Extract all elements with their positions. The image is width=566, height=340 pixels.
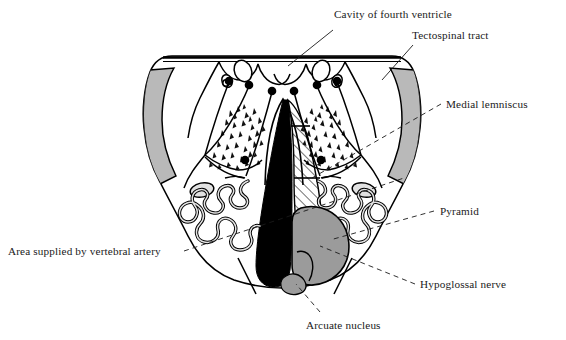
label-cavity-of-fourth-ventricle: Cavity of fourth ventricle <box>334 8 452 20</box>
label-area-supplied-by-vertebral-artery: Area supplied by vertebral artery <box>8 245 161 257</box>
leader-arcuate-nucleus <box>296 284 320 312</box>
label-hypoglossal-nerve: Hypoglossal nerve <box>420 278 506 290</box>
medulla-cross-section-svg: Cavity of fourth ventricle Tectospinal t… <box>0 0 566 340</box>
label-arcuate-nucleus: Arcuate nucleus <box>306 319 381 331</box>
label-pyramid: Pyramid <box>440 205 479 217</box>
anatomy-figure: Cavity of fourth ventricle Tectospinal t… <box>0 0 566 340</box>
label-tectospinal-tract: Tectospinal tract <box>412 29 489 41</box>
label-medial-lemniscus: Medial lemniscus <box>446 98 528 110</box>
